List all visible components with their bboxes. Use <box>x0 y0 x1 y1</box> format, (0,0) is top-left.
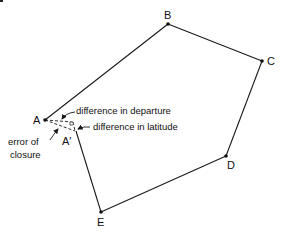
vertex-c-dot <box>260 59 264 63</box>
departure-leader-arrow <box>62 112 75 119</box>
vertex-e-label: E <box>97 216 104 228</box>
right-angle-mark <box>70 122 73 125</box>
departure-dashed-line <box>45 120 73 122</box>
traverse-edges <box>45 24 262 212</box>
edge-c-d <box>226 61 262 156</box>
vertex-a-prime-label: A′ <box>62 135 71 147</box>
difference-in-latitude-label: difference in latitude <box>93 121 178 132</box>
vertex-a-label: A <box>33 114 41 126</box>
vertex-b-label: B <box>164 9 171 21</box>
edge-d-e <box>101 156 226 212</box>
vertex-e-dot <box>99 210 103 214</box>
crop-remnant <box>0 0 3 2</box>
latitude-dashed-line <box>73 122 75 131</box>
vertex-dots <box>43 22 264 214</box>
vertex-d-label: D <box>227 159 235 171</box>
error-of-closure-label-line2: closure <box>10 149 41 160</box>
error-of-closure-label-line1: error of <box>8 136 39 147</box>
edge-e-a-prime <box>76 131 101 212</box>
vertex-c-label: C <box>267 55 275 67</box>
edge-b-c <box>168 24 262 61</box>
vertex-d-dot <box>224 154 228 158</box>
difference-in-departure-label: difference in departure <box>76 105 171 116</box>
latitude-leader-arrow <box>78 127 90 129</box>
vertex-b-dot <box>166 22 170 26</box>
traverse-diagram: A B C D E A′ difference in departure dif… <box>0 0 285 237</box>
vertex-a-dot <box>43 118 47 122</box>
closure-leader-arrow <box>50 129 58 140</box>
closure-lines <box>45 120 75 131</box>
